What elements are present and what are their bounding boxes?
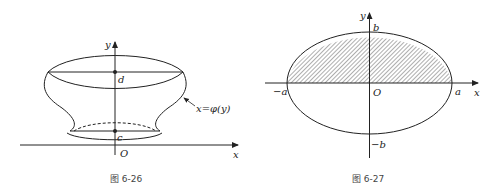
y-axis-label: y: [104, 39, 111, 50]
origin-label: O: [120, 148, 128, 159]
neg-a-label: −a: [273, 86, 287, 97]
x-axis-label: x: [233, 149, 239, 160]
curve-pointer: [184, 98, 195, 106]
caption-6-26: 图 6-26: [110, 174, 143, 184]
caption-6-27: 图 6-27: [352, 174, 384, 184]
right-profile-curve: [156, 72, 187, 131]
b-label: b: [373, 22, 379, 33]
origin-label: O: [373, 87, 381, 98]
figure-6-26: y x O d c x=φ(y) 图 6-26: [20, 39, 239, 184]
a-label: a: [455, 86, 461, 97]
d-label: d: [118, 74, 124, 85]
figure-6-27: y x O b −b −a a 图 6-27: [265, 10, 480, 184]
left-profile-curve: [44, 72, 74, 131]
curve-label: x=φ(y): [196, 103, 231, 114]
figure-canvas: y x O d c x=φ(y) 图 6-26 y x O b −b −a a …: [0, 0, 499, 193]
y-axis-label: y: [359, 10, 366, 21]
c-label: c: [117, 132, 123, 143]
point-d: [113, 70, 117, 74]
x-axis-label: x: [474, 87, 480, 98]
neg-b-label: −b: [371, 139, 386, 150]
